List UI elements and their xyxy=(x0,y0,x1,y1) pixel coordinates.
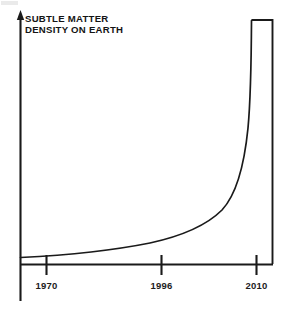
chart-background xyxy=(0,0,298,320)
x-tick-label-1996: 1996 xyxy=(151,280,173,291)
scan-artifact xyxy=(1,1,18,5)
chart-canvas: 1970 1996 2010 SUBTLE MATTER DENSITY ON … xyxy=(0,0,298,320)
chart-title-line-1: SUBTLE MATTER xyxy=(25,13,109,24)
x-tick-label-2010: 2010 xyxy=(246,280,268,291)
chart-figure: 1970 1996 2010 SUBTLE MATTER DENSITY ON … xyxy=(0,0,298,320)
x-tick-label-1970: 1970 xyxy=(36,280,58,291)
chart-title-line-2: DENSITY ON EARTH xyxy=(25,24,123,35)
